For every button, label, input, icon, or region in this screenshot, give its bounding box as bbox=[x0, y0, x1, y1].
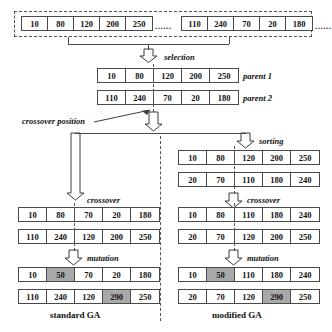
gene-cell: 120 bbox=[235, 151, 263, 164]
branch-divider bbox=[160, 136, 161, 321]
population-chromosome-a: 1080120200250 bbox=[21, 16, 153, 31]
gene-cell: 120 bbox=[235, 290, 263, 303]
gene-cell: 110 bbox=[235, 208, 263, 221]
parents-down-arrow-icon bbox=[144, 112, 166, 132]
branch-split-bar bbox=[75, 133, 246, 134]
gene-cell: 250 bbox=[291, 290, 319, 303]
gene-cell: 180 bbox=[263, 173, 291, 186]
gene-cell: 20 bbox=[182, 91, 210, 104]
gene-cell: 200 bbox=[182, 69, 210, 82]
gene-cell: 180 bbox=[263, 208, 291, 221]
gene-cell: 10 bbox=[19, 208, 47, 221]
gene-cell: 70 bbox=[207, 230, 235, 243]
gene-cell: 80 bbox=[48, 17, 74, 30]
modified-mutation-row2: 2070120290250 bbox=[178, 289, 320, 304]
standard-mutation-arrow-icon bbox=[64, 250, 86, 266]
standard-mutation-label: mutation bbox=[87, 254, 119, 263]
modified-crossover-row1: 1080110180240 bbox=[178, 207, 320, 222]
gene-cell: 110 bbox=[235, 268, 263, 281]
gene-cell: 250 bbox=[126, 17, 152, 30]
gene-cell: 200 bbox=[263, 230, 291, 243]
gene-cell: 110 bbox=[19, 230, 47, 243]
gene-cell-mutated: 290 bbox=[263, 290, 291, 303]
gene-cell: 20 bbox=[260, 17, 286, 30]
parent1-label: parent 1 bbox=[243, 72, 272, 81]
gene-cell: 240 bbox=[291, 208, 319, 221]
standard-mutation-row2: 110240120290250 bbox=[18, 289, 160, 304]
modified-mutation-row1: 1050110180240 bbox=[178, 267, 320, 282]
gene-cell: 20 bbox=[179, 173, 207, 186]
modified-crossover-label: crossover bbox=[247, 196, 280, 205]
gene-cell: 180 bbox=[210, 91, 238, 104]
standard-crossover-row1: 10807020180 bbox=[18, 207, 160, 222]
gene-cell: 20 bbox=[103, 208, 131, 221]
modified-crossover-row2: 2070120200250 bbox=[178, 229, 320, 244]
standard-mutation-row1: 10507020180 bbox=[18, 267, 160, 282]
gene-cell: 10 bbox=[179, 208, 207, 221]
gene-cell-mutated: 290 bbox=[103, 290, 131, 303]
gene-cell: 240 bbox=[126, 91, 154, 104]
gene-cell: 10 bbox=[22, 17, 48, 30]
gene-cell: 10 bbox=[179, 268, 207, 281]
gene-cell: 10 bbox=[19, 268, 47, 281]
crossover-position-label: crossover position bbox=[22, 117, 85, 126]
gene-cell: 180 bbox=[286, 17, 312, 30]
gene-cell: 200 bbox=[103, 230, 131, 243]
modified-sorting-position-line bbox=[234, 146, 235, 194]
gene-cell: 240 bbox=[47, 230, 75, 243]
gene-cell: 70 bbox=[75, 208, 103, 221]
gene-cell: 110 bbox=[235, 173, 263, 186]
gene-cell: 180 bbox=[131, 208, 159, 221]
standard-crossover-arrow-icon bbox=[66, 133, 88, 201]
modified-mutation-label: mutation bbox=[247, 254, 279, 263]
gene-cell: 200 bbox=[263, 151, 291, 164]
gene-cell: 240 bbox=[291, 173, 319, 186]
gene-cell: 250 bbox=[210, 69, 238, 82]
gene-cell: 20 bbox=[103, 268, 131, 281]
gene-cell: 10 bbox=[98, 69, 126, 82]
selection-arrow-icon bbox=[139, 49, 161, 63]
gene-cell: 180 bbox=[131, 268, 159, 281]
gene-cell: 70 bbox=[234, 17, 260, 30]
gene-cell: 240 bbox=[208, 17, 234, 30]
gene-cell: 70 bbox=[75, 268, 103, 281]
standard-crossover-row2: 110240120200250 bbox=[18, 229, 160, 244]
gene-cell: 120 bbox=[235, 230, 263, 243]
gene-cell: 80 bbox=[207, 151, 235, 164]
gene-cell: 250 bbox=[291, 151, 319, 164]
modified-crossover-position-line bbox=[234, 203, 235, 251]
gene-cell: 10 bbox=[179, 151, 207, 164]
selection-bracket-right bbox=[229, 37, 230, 44]
crossover-position-line bbox=[153, 64, 154, 112]
gene-cell-mutated: 50 bbox=[47, 268, 75, 281]
gene-cell: 110 bbox=[182, 17, 208, 30]
gene-cell: 70 bbox=[207, 173, 235, 186]
gene-cell: 250 bbox=[291, 230, 319, 243]
population-chromosome-b: 1102407020180 bbox=[181, 16, 313, 31]
gene-cell: 70 bbox=[154, 91, 182, 104]
gene-cell: 240 bbox=[291, 268, 319, 281]
standard-crossover-label: crossover bbox=[87, 196, 120, 205]
gene-cell: 250 bbox=[131, 290, 159, 303]
modified-mutation-arrow-icon bbox=[224, 250, 246, 266]
gene-cell: 180 bbox=[263, 268, 291, 281]
gene-cell: 80 bbox=[207, 208, 235, 221]
sorting-arrow-icon bbox=[236, 133, 258, 149]
gene-cell: 110 bbox=[98, 91, 126, 104]
population-ellipsis-1: ...... bbox=[155, 22, 172, 31]
modified-sorting-row2: 2070110180240 bbox=[178, 172, 320, 187]
gene-cell: 120 bbox=[75, 230, 103, 243]
gene-cell: 250 bbox=[131, 230, 159, 243]
modified-ga-title: modified GA bbox=[212, 311, 262, 320]
selection-bracket-left bbox=[68, 37, 69, 44]
parent1-row: 1080120200250 bbox=[97, 68, 239, 83]
gene-cell: 120 bbox=[75, 290, 103, 303]
parent2-row: 1102407020180 bbox=[97, 90, 239, 105]
gene-cell: 20 bbox=[179, 230, 207, 243]
sorting-label: sorting bbox=[259, 137, 284, 146]
gene-cell-mutated: 50 bbox=[207, 268, 235, 281]
gene-cell: 70 bbox=[207, 290, 235, 303]
gene-cell: 120 bbox=[154, 69, 182, 82]
modified-sorting-row1: 1080120200250 bbox=[178, 150, 320, 165]
